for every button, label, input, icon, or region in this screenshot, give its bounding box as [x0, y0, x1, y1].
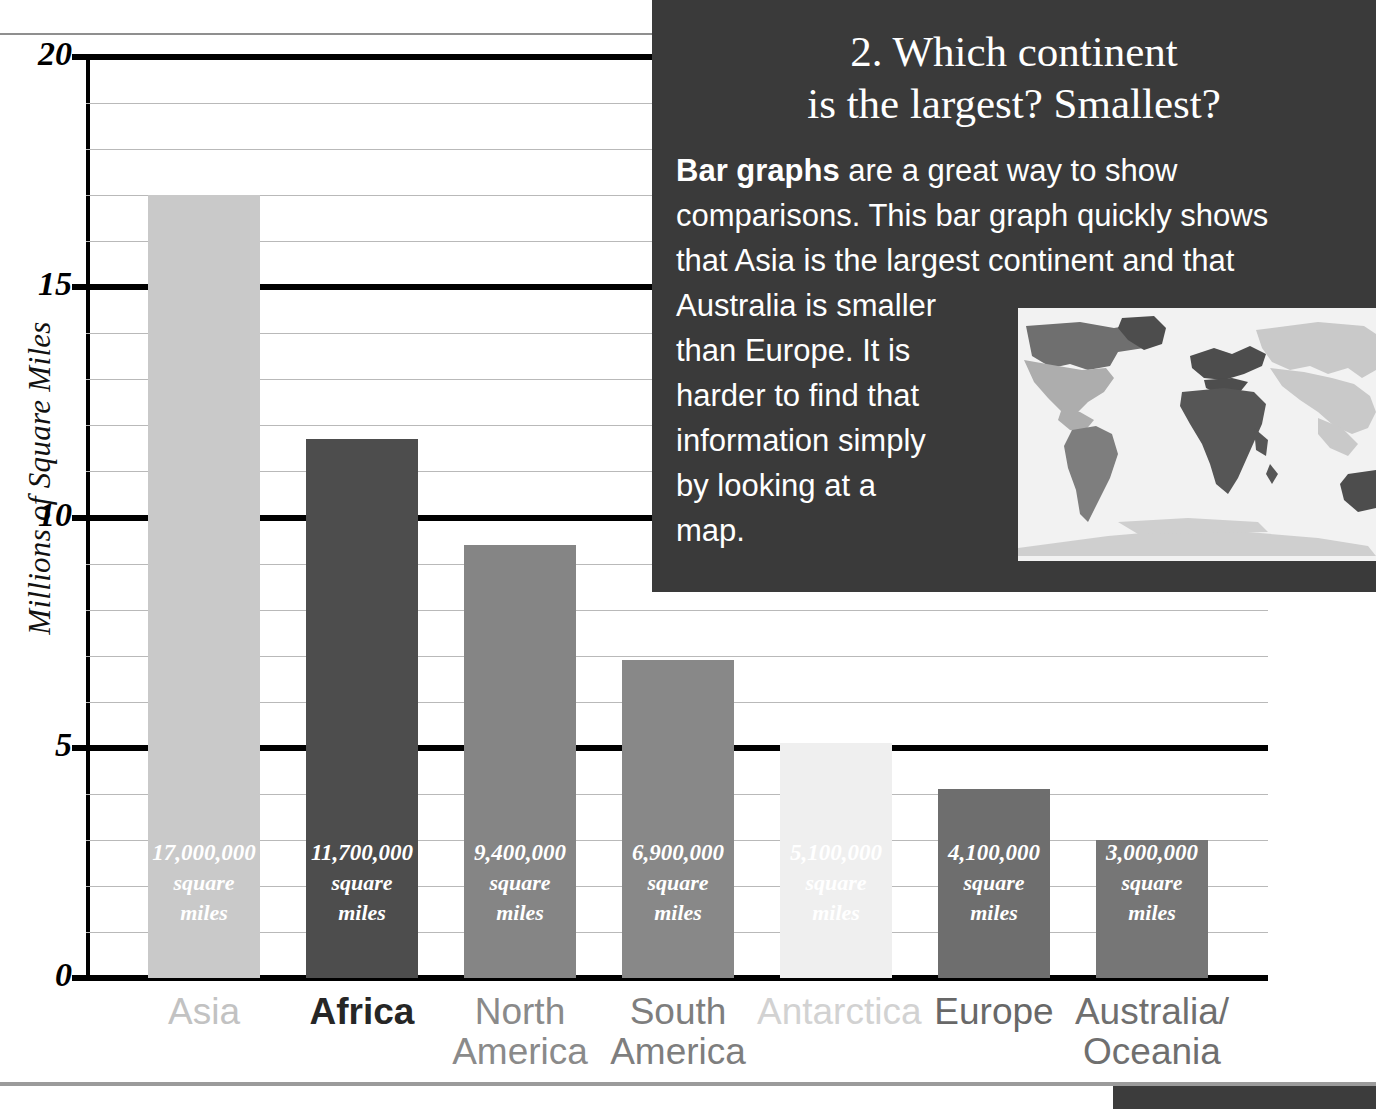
bar-value-number: 6,900,000 — [622, 838, 734, 868]
panel-title: 2. Which continent is the largest? Small… — [672, 26, 1356, 130]
bar-value-unit-line2: miles — [306, 898, 418, 928]
bar-value-label: 11,700,000squaremiles — [306, 838, 418, 928]
x-axis-category-label: Africa — [283, 992, 441, 1032]
bar-value-unit-line1: square — [148, 868, 260, 898]
y-axis-tick-label: 5 — [12, 728, 72, 762]
category-label-line1: South — [630, 991, 727, 1032]
panel-body-line-4: Australia is smaller — [676, 283, 1006, 328]
bar-value-label: 9,400,000squaremiles — [464, 838, 576, 928]
bar-value-unit-line1: square — [938, 868, 1050, 898]
x-axis-category-label: Europe — [915, 992, 1073, 1032]
y-axis-tick-label: 15 — [12, 267, 72, 301]
bar-value-unit-line2: miles — [464, 898, 576, 928]
x-axis-category-label: Australia/Oceania — [1073, 992, 1231, 1072]
bar-value-label: 6,900,000squaremiles — [622, 838, 734, 928]
panel-body-line1-rest: are a great way to show — [840, 153, 1178, 188]
category-label-line1: Asia — [168, 991, 240, 1032]
bar-graph-page: Millions of Square Miles 20151050 17,000… — [0, 0, 1376, 1109]
x-axis-category-label: Antarctica — [757, 992, 915, 1032]
category-label-line2: America — [441, 1032, 599, 1072]
panel-body-line-8: by looking at a — [676, 463, 1006, 508]
bar-value-number: 17,000,000 — [148, 838, 260, 868]
panel-body-line-7: information simply — [676, 418, 1006, 463]
bar-value-unit-line2: miles — [622, 898, 734, 928]
bar-value-label: 4,100,000squaremiles — [938, 838, 1050, 928]
category-label-line2: America — [599, 1032, 757, 1072]
x-axis-category-label: NorthAmerica — [441, 992, 599, 1072]
category-label-line1: Africa — [310, 991, 415, 1032]
bar-value-unit-line1: square — [464, 868, 576, 898]
category-label-line2: Oceania — [1073, 1032, 1231, 1072]
bar[interactable]: 17,000,000squaremiles — [148, 195, 260, 978]
bar-value-unit-line2: miles — [148, 898, 260, 928]
category-label-line1: Europe — [934, 991, 1053, 1032]
bar-value-label: 17,000,000squaremiles — [148, 838, 260, 928]
y-axis-tick-mark — [72, 54, 86, 60]
bar-value-unit-line1: square — [622, 868, 734, 898]
bottom-right-block — [1113, 1086, 1376, 1109]
panel-body-line-1: Bar graphs are a great way to show — [676, 148, 1376, 193]
x-axis-category-label: Asia — [125, 992, 283, 1032]
bar-value-number: 5,100,000 — [780, 838, 892, 868]
panel-title-line2: is the largest? Smallest? — [672, 78, 1356, 130]
bar-value-number: 11,700,000 — [306, 838, 418, 868]
bar-value-unit-line1: square — [306, 868, 418, 898]
bar[interactable]: 9,400,000squaremiles — [464, 545, 576, 978]
bar-value-unit-line1: square — [1096, 868, 1208, 898]
y-axis-tick-mark — [72, 284, 86, 290]
panel-body-lead: Bar graphs — [676, 153, 840, 188]
bar[interactable]: 11,700,000squaremiles — [306, 439, 418, 978]
panel-body-line-5: than Europe. It is — [676, 328, 1006, 373]
bar[interactable]: 5,100,000squaremiles — [780, 743, 892, 978]
world-map-image — [1018, 308, 1376, 561]
bar-value-unit-line1: square — [780, 868, 892, 898]
category-label-line1: Australia/ — [1075, 991, 1229, 1032]
bar-value-number: 3,000,000 — [1096, 838, 1208, 868]
panel-body-line-3: that Asia is the largest continent and t… — [676, 238, 1376, 283]
gridline-minor — [86, 656, 1268, 657]
bar-value-number: 4,100,000 — [938, 838, 1050, 868]
y-axis-tick-label: 0 — [12, 958, 72, 992]
bar-value-number: 9,400,000 — [464, 838, 576, 868]
panel-body-line-6: harder to find that — [676, 373, 1006, 418]
panel-title-line1: 2. Which continent — [850, 28, 1178, 75]
y-axis-tick-label: 10 — [12, 498, 72, 532]
bar-value-unit-line2: miles — [1096, 898, 1208, 928]
gridline-minor — [86, 610, 1268, 611]
bar-value-unit-line2: miles — [938, 898, 1050, 928]
y-axis-tick-labels: 20151050 — [10, 0, 72, 1109]
bar-value-label: 3,000,000squaremiles — [1096, 838, 1208, 928]
panel-body-line-2: comparisons. This bar graph quickly show… — [676, 193, 1376, 238]
x-axis-category-label: SouthAmerica — [599, 992, 757, 1072]
category-label-line1: Antarctica — [757, 991, 922, 1032]
panel-body-line-9: map. — [676, 508, 1006, 553]
bar[interactable]: 3,000,000squaremiles — [1096, 840, 1208, 978]
bar[interactable]: 4,100,000squaremiles — [938, 789, 1050, 978]
category-label-line1: North — [475, 991, 565, 1032]
bar-value-unit-line2: miles — [780, 898, 892, 928]
y-axis-tick-mark — [72, 745, 86, 751]
bar-value-label: 5,100,000squaremiles — [780, 838, 892, 928]
bar[interactable]: 6,900,000squaremiles — [622, 660, 734, 978]
y-axis-tick-mark — [72, 975, 86, 981]
y-axis-tick-mark — [72, 515, 86, 521]
y-axis-tick-label: 20 — [12, 37, 72, 71]
